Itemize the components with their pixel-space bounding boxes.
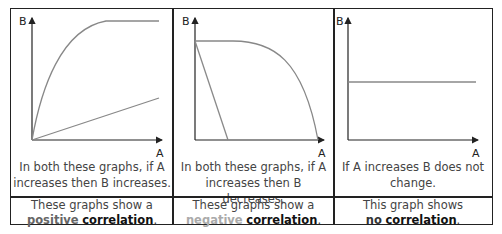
description-line: increases then B increases. [11, 175, 173, 191]
term-correlation: correlation [386, 213, 457, 227]
description-none: If A increases B does not change. [334, 159, 492, 191]
y-axis-label: B [336, 15, 344, 28]
line-rising [32, 98, 159, 140]
row-divider [11, 196, 492, 198]
panel-none: B A If A increases B does not change. Th… [334, 9, 492, 224]
conclusion-positive: These graphs show a positive correlation… [11, 198, 173, 227]
graph-negative: B A [173, 9, 334, 159]
conclusion-none: This graph shows no correlation. [334, 198, 492, 227]
conclusion-line: These graphs show a [11, 198, 173, 213]
panel-negative: B A In both these graphs, if A increases… [173, 9, 334, 224]
line-falling [195, 41, 228, 140]
period: . [317, 213, 321, 227]
y-axis-label: B [182, 15, 190, 28]
keyword-positive: positive [27, 213, 79, 227]
correlation-diagram: B A In both these graphs, if A increases… [10, 8, 493, 225]
x-axis-label: A [472, 147, 480, 159]
description-line: If A increases B does not [334, 159, 492, 175]
period: . [457, 213, 461, 227]
x-axis-label: A [156, 147, 164, 159]
description-positive: In both these graphs, if A increases the… [11, 159, 173, 191]
graph-positive: B A [11, 9, 173, 159]
keyword-negative: negative [186, 213, 243, 227]
keyword-no: no [366, 213, 382, 227]
conclusion-line: This graph shows [334, 198, 492, 213]
conclusion-line: These graphs show a [173, 198, 334, 213]
curve-plateau [32, 21, 159, 140]
term-correlation: correlation [246, 213, 317, 227]
y-axis-label: B [19, 15, 27, 28]
graph-none: B A [334, 9, 492, 159]
x-axis-label: A [318, 147, 326, 159]
term-correlation: correlation [82, 213, 153, 227]
conclusion-negative: These graphs show a negative correlation… [173, 198, 334, 227]
description-line: In both these graphs, if A [173, 159, 334, 175]
description-line: In both these graphs, if A [11, 159, 173, 175]
curve-falling [195, 41, 318, 140]
description-line: change. [334, 175, 492, 191]
panel-positive: B A In both these graphs, if A increases… [11, 9, 173, 224]
period: . [153, 213, 157, 227]
